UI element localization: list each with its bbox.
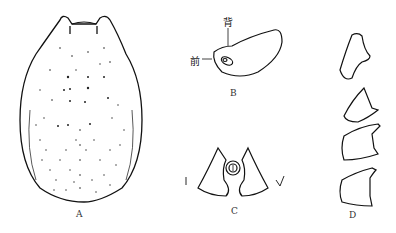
panel-c-illustration (186, 148, 284, 196)
panel-a-illustration (20, 16, 142, 202)
panel-label-b: B (230, 88, 237, 98)
panel-d-illustration (340, 34, 380, 206)
annotation-anterior: 前 (190, 53, 200, 68)
annotation-dorsal: 背 (223, 14, 233, 29)
panel-label-a: A (76, 209, 83, 219)
panel-label-c: C (231, 206, 238, 216)
panel-label-d: D (349, 210, 356, 220)
panel-a-stipple (35, 47, 124, 193)
figure-canvas (0, 0, 396, 233)
panel-b-illustration (202, 28, 282, 76)
